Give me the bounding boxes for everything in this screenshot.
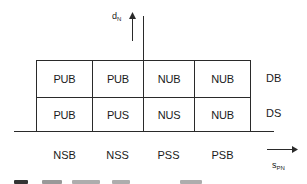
- vertical-axis-subscript: N: [117, 16, 121, 22]
- row-label-ds: DS: [266, 107, 281, 119]
- col-label-nsb: NSB: [39, 149, 90, 161]
- cell-r2-c4: NUB: [195, 98, 250, 131]
- cell-r2-c2: PUS: [93, 98, 143, 131]
- dn-arrow-shaft: [132, 17, 133, 41]
- table-right-border: [250, 60, 251, 132]
- cell-r1-c3: NUB: [144, 61, 194, 97]
- arrow-right-icon: [292, 146, 298, 153]
- figure-caption-clipped: [12, 178, 212, 184]
- col-label-nss: NSS: [92, 149, 143, 161]
- cell-r2-c1: PUB: [37, 98, 92, 131]
- cell-r2-c3: NUS: [144, 98, 194, 131]
- cell-r1-c4: NUB: [195, 61, 250, 97]
- horizontal-axis-line: [14, 131, 274, 132]
- spn-arrow-shaft: [267, 149, 293, 150]
- horizontal-axis-label: sPN: [272, 160, 285, 171]
- cell-r1-c1: PUB: [37, 61, 92, 97]
- col-label-psb: PSB: [197, 149, 248, 161]
- row-label-db: DB: [266, 72, 281, 84]
- vertical-axis-label: dN: [112, 11, 121, 22]
- cell-r1-c2: PUB: [93, 61, 143, 97]
- col-label-pss: PSS: [143, 149, 194, 161]
- arrow-up-icon: [129, 12, 136, 19]
- horizontal-axis-subscript: PN: [277, 165, 285, 171]
